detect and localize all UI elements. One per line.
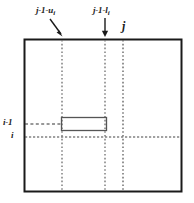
index-interval-diagram: j-1-ui j-1-li j i-1 i [0, 0, 194, 203]
label-j-1-minus-u-i-subscript: i [53, 9, 55, 17]
arrow-to-j-1-minus-l-i [102, 18, 108, 37]
arrow-to-j-1-minus-u-i [50, 19, 63, 37]
interval-rectangle [62, 118, 107, 131]
label-j-1-minus-u-i-base: j-1-u [36, 5, 53, 15]
label-i-minus-1: i-1 [3, 118, 12, 127]
label-j-1-minus-u-i: j-1-ui [36, 6, 55, 17]
label-i: i [11, 131, 13, 140]
label-i-minus-1-base: i-1 [3, 117, 12, 127]
label-i-base: i [11, 130, 13, 140]
label-j-base: j [122, 19, 125, 33]
label-j-1-minus-l-i-base: j-1-l [93, 5, 108, 15]
outer-box [25, 40, 182, 192]
diagram-canvas [0, 0, 194, 203]
label-j-1-minus-l-i-subscript: i [108, 9, 110, 17]
label-j-1-minus-l-i: j-1-li [93, 6, 110, 17]
label-j: j [122, 20, 125, 32]
